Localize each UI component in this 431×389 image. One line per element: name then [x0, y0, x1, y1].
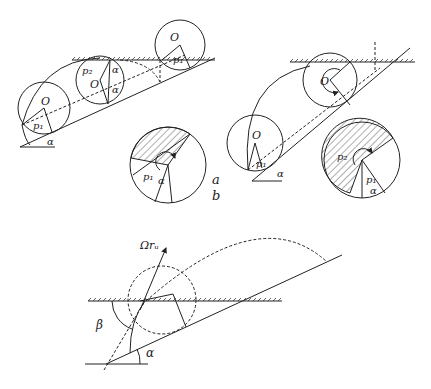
panel-b	[227, 42, 415, 198]
label-o: O	[320, 75, 329, 88]
label-alpha: α	[47, 136, 54, 147]
label-o: O	[90, 78, 99, 91]
label-p1: p₁	[33, 120, 43, 131]
label-p1: p₁	[173, 54, 183, 65]
label-omega-r: Ωrᵤ	[139, 239, 159, 252]
label-p2: p₂	[82, 65, 92, 76]
inset-b	[322, 118, 400, 198]
label-o: O	[41, 95, 50, 108]
diagram-canvas: O p₁ α p₂ O α α O p₁ p₁ α a b O O p₁ α p…	[0, 0, 431, 389]
label-alpha: α	[146, 346, 154, 360]
panel-a	[18, 20, 215, 203]
label-beta: β	[95, 318, 103, 332]
label-p2: p₂	[337, 151, 347, 162]
label-o: O	[252, 129, 261, 142]
label-p1: p₁	[256, 158, 266, 169]
panel-c	[85, 238, 342, 370]
inset-a	[130, 127, 206, 203]
label-alpha: α	[158, 175, 165, 186]
label-panel-a: a	[212, 172, 220, 187]
label-o: O	[170, 31, 179, 44]
label-alpha: α	[370, 185, 377, 196]
label-alpha: α	[277, 168, 284, 179]
label-p1: p₁	[143, 171, 153, 182]
label-alpha: α	[112, 84, 119, 95]
label-alpha: α	[112, 64, 119, 75]
label-panel-b: b	[212, 188, 220, 203]
label-p1: p₁	[366, 174, 376, 185]
